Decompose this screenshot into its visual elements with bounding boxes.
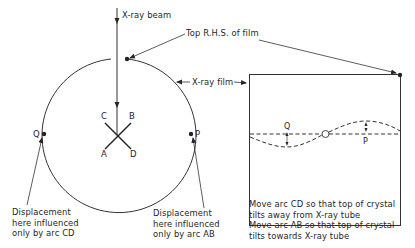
point-q-dot	[42, 132, 46, 136]
film-centre-marker	[322, 131, 329, 138]
disp-ab-line-3: only by arc AB	[153, 229, 220, 240]
crystal-label-a: A	[101, 149, 107, 159]
instruction-line-2: tilts away from X-ray tube	[249, 210, 395, 221]
film-q-label: Q	[284, 122, 290, 132]
top-rhs-leader-film	[259, 40, 396, 73]
displacement-ab-note: Displacement here influenced only by arc…	[153, 208, 220, 240]
instruction-line-3: Move arc AB so that top of crystal	[249, 220, 395, 231]
p-leader	[193, 138, 204, 208]
disp-cd-line-2: here influenced	[12, 218, 79, 229]
beam-arrow-mid	[115, 102, 120, 108]
disp-cd-line-1: Displacement	[12, 207, 79, 218]
crystal-label-c: C	[101, 111, 107, 121]
top-rhs-label: Top R.H.S. of film	[186, 28, 259, 39]
beam-label: X-ray beam	[122, 10, 171, 21]
top-rhs-dot-film	[398, 73, 402, 77]
film-p-arrow-up	[365, 122, 368, 126]
crystal-label-b: B	[129, 111, 135, 121]
instruction-line-1: Move arc CD so that top of crystal	[249, 199, 395, 210]
film-label: X-ray film	[192, 77, 233, 88]
film-leader-right	[234, 82, 246, 83]
disp-ab-line-2: here influenced	[153, 219, 220, 230]
top-rhs-dot-circle	[125, 57, 129, 61]
instructions-note: Move arc CD so that top of crystal tilts…	[249, 199, 395, 241]
q-leader	[27, 138, 42, 205]
film-p-label: P	[363, 137, 368, 147]
crystal-label-d: D	[130, 149, 137, 159]
point-p-dot	[189, 132, 193, 136]
disp-cd-line-3: only by arc CD	[12, 228, 79, 239]
beam-arrow-top	[115, 18, 120, 24]
instruction-line-4: tilts towards X-ray tube	[249, 231, 395, 242]
displacement-cd-note: Displacement here influenced only by arc…	[12, 207, 79, 239]
point-q-label: Q	[33, 129, 40, 139]
disp-ab-line-1: Displacement	[153, 208, 220, 219]
film-p-arrow-down	[365, 128, 368, 132]
point-p-label: P	[195, 129, 200, 139]
film-q-arrow-down	[286, 142, 289, 146]
top-rhs-leader-circle	[130, 34, 185, 58]
